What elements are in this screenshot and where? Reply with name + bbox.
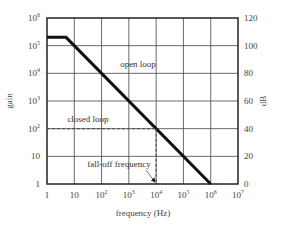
x-tick-label: 105 (177, 189, 189, 200)
y-tick-label: 106 (28, 12, 40, 23)
x-tick-label: 10 (70, 190, 80, 200)
fall-off-arrow (146, 170, 155, 182)
gain-frequency-chart: 110102103104105106107 110102103104105106… (0, 0, 281, 226)
x-tick-label: 102 (96, 189, 108, 200)
y-tick-label: 102 (28, 123, 40, 134)
closed-loop-label: closed loop (67, 114, 109, 124)
y-tick-label: 105 (28, 40, 40, 51)
x-tick-label: 104 (150, 189, 162, 200)
y2-tick-label: 100 (244, 41, 258, 51)
y2-tick-label: 120 (244, 13, 258, 23)
y-axis-label: gain (4, 93, 14, 109)
y2-tick-labels: 020406080100120 (244, 13, 258, 189)
y2-tick-label: 60 (244, 96, 254, 106)
y2-tick-label: 20 (244, 151, 254, 161)
y-tick-label: 1 (36, 179, 41, 189)
x-tick-label: 103 (123, 189, 135, 200)
y-tick-label: 103 (28, 95, 40, 106)
fall-off-label: fall-off frequency (87, 159, 151, 169)
y2-tick-label: 80 (244, 68, 254, 78)
open-loop-label: open loop (120, 59, 156, 69)
x-tick-labels: 110102103104105106107 (45, 189, 244, 200)
y-tick-label: 104 (28, 67, 40, 78)
y2-tick-label: 40 (244, 124, 254, 134)
x-tick-label: 1 (45, 190, 50, 200)
x-tick-label: 107 (232, 189, 244, 200)
x-tick-label: 106 (205, 189, 217, 200)
y2-axis-label: dB (258, 96, 268, 107)
x-axis-label: frequency (Hz) (116, 208, 171, 218)
y-tick-labels: 110102103104105106 (28, 12, 41, 189)
y2-tick-label: 0 (244, 179, 249, 189)
y-tick-label: 10 (31, 151, 41, 161)
